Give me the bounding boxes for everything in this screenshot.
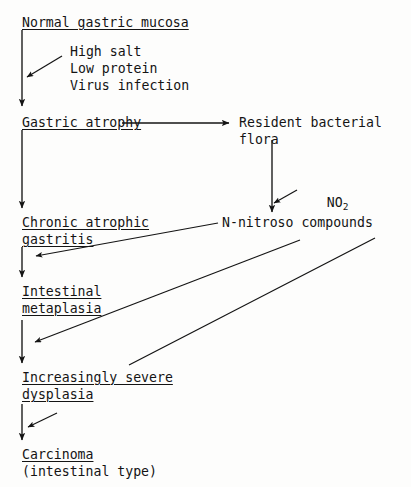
flowchart-diagram: Normal gastric mucosa High salt Low prot…	[0, 0, 411, 487]
node-carcinoma-subtitle: (intestinal type)	[22, 463, 157, 480]
node-gastric-atrophy: Gastric atrophy	[22, 114, 141, 131]
risk-factor-low-protein: Low protein	[70, 60, 157, 78]
edge-nnitroso-to-dysplasia	[129, 238, 375, 365]
risk-factors-group: High salt Low protein Virus infection	[0, 0, 32, 90]
edge-nnitroso-to-carcinoma	[28, 413, 57, 427]
node-normal-gastric-mucosa: Normal gastric mucosa	[22, 14, 189, 31]
no2-subscript: 2	[343, 201, 349, 212]
node-intestinal-metaplasia-line2: metaplasia	[22, 300, 101, 317]
node-n-nitroso-compounds: N-nitroso compounds	[222, 214, 373, 231]
risk-factor-high-salt: High salt	[70, 43, 141, 61]
edge-factors-to-stem	[27, 56, 62, 77]
node-increasingly-severe-dysplasia-line2: dysplasia	[22, 386, 93, 403]
node-chronic-atrophic-gastritis-line2: gastritis	[22, 231, 93, 248]
node-resident-bacterial-flora-line2: flora	[239, 131, 279, 148]
node-carcinoma: Carcinoma	[22, 446, 93, 463]
node-resident-bacterial-flora-line1: Resident bacterial	[239, 114, 382, 131]
no2-formula: NO	[327, 195, 343, 210]
node-chronic-atrophic-gastritis-line1: Chronic atrophic	[22, 214, 149, 231]
node-intestinal-metaplasia-line1: Intestinal	[22, 283, 101, 300]
node-increasingly-severe-dysplasia-line1: Increasingly severe	[22, 369, 173, 386]
edge-no2-to-nnitroso	[274, 190, 297, 203]
risk-factor-virus-infection: Virus infection	[70, 77, 189, 95]
